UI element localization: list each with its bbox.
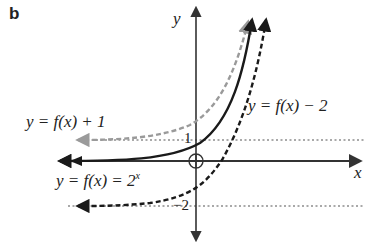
y-axis-label: y (173, 10, 181, 27)
origin-circle-icon (189, 154, 203, 168)
label-f-minus-2: y = f(x) − 2 (248, 97, 328, 114)
x-axis-label: x (354, 164, 362, 181)
panel-label: b (9, 5, 19, 22)
label-f-2x-exponent: x (136, 170, 140, 181)
label-f-2x: y = f(x) = 2x (56, 171, 140, 189)
tick-label-neg2: −2 (173, 198, 189, 213)
graph-transformations-diagram: b y x 1 −2 y = f(x) + 1 y = f(x) = 2x y … (0, 0, 365, 247)
tick-label-1: 1 (184, 131, 192, 146)
label-f-2x-base: y = f(x) = 2 (56, 171, 136, 190)
curve-f-left-arrow-icon (70, 156, 82, 166)
label-f-plus-1: y = f(x) + 1 (26, 113, 106, 130)
